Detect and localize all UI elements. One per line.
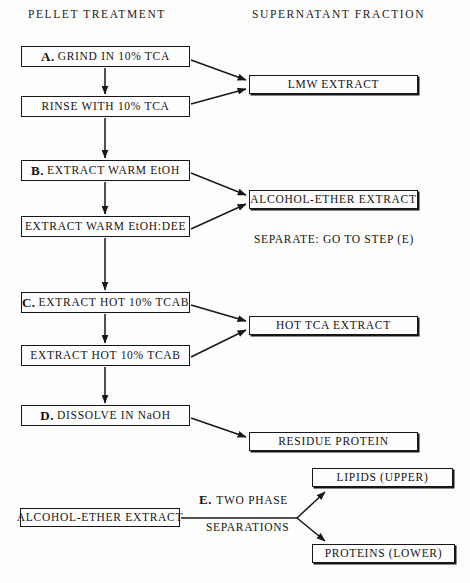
node-hot-tca-extract[interactable]: HOT TCA EXTRACT [249,316,418,335]
column-header-supernatant-fraction: SUPERNATANT FRACTION [252,8,425,20]
node-label: DISSOLVE IN NaOH [57,410,171,422]
label-two-phase-line2: SEPARATIONS [206,521,289,533]
arrow-second-to-hot-tca [191,330,246,357]
node-label: EXTRACT WARM EtOH [47,165,180,177]
arrow-extract-b-to-alcohol [191,173,246,195]
node-label: LMW EXTRACT [288,79,380,91]
label-step-letter: E. [199,492,216,507]
arrow-fork-to-lipids [297,492,325,518]
node-step-letter: A. [41,50,55,63]
node-extract-hot-tcab-c[interactable]: C.EXTRACT HOT 10% TCAB [21,292,190,313]
node-alcohol-ether-extract-input[interactable]: ALCOHOL-ETHER EXTRACT [20,508,180,527]
arrow-dissolve-to-residue [191,418,246,437]
node-extract-warm-etoh-dee[interactable]: EXTRACT WARM EtOH:DEE [21,216,190,237]
arrow-dee-to-alcohol [191,204,246,229]
node-alcohol-ether-extract[interactable]: ALCOHOL-ETHER EXTRACT [249,190,418,209]
node-lipids-upper[interactable]: LIPIDS (UPPER) [312,468,453,487]
node-dissolve-naoh[interactable]: D.DISSOLVE IN NaOH [21,405,190,426]
node-label: PROTEINS (LOWER) [325,548,443,560]
node-step-letter: D. [40,409,54,422]
node-proteins-lower[interactable]: PROTEINS (LOWER) [312,544,455,563]
node-step-letter: C. [22,296,36,309]
label-text: TWO PHASE [216,494,288,506]
node-label: HOT TCA EXTRACT [276,320,391,332]
label-separate-note: SEPARATE: GO TO STEP (E) [254,233,414,245]
label-text: SEPARATE: GO TO STEP (E) [254,233,414,245]
node-lmw-extract[interactable]: LMW EXTRACT [249,75,418,94]
node-rinse-tca[interactable]: RINSE WITH 10% TCA [21,96,190,117]
node-label: LIPIDS (UPPER) [337,472,429,484]
node-grind-tca[interactable]: A.GRIND IN 10% TCA [21,46,190,67]
node-label: EXTRACT HOT 10% TCAB [39,297,189,309]
node-label: ALCOHOL-ETHER EXTRACT [250,194,416,206]
node-label: ALCOHOL-ETHER EXTRACT [17,512,183,524]
arrow-fork-to-proteins [297,518,325,541]
arrow-extract-c-to-hot-tca [191,305,246,321]
column-header-pellet-treatment: PELLET TREATMENT [28,8,166,20]
label-text: SEPARATIONS [206,521,289,533]
flowchart-page: PELLET TREATMENTSUPERNATANT FRACTION A.G… [0,0,470,583]
node-label: EXTRACT HOT 10% TCAB [30,350,180,362]
node-extract-hot-tcab-2[interactable]: EXTRACT HOT 10% TCAB [21,345,190,366]
label-two-phase-line1: E. TWO PHASE [199,492,288,508]
arrow-grind-to-lmw [191,60,246,80]
node-extract-warm-etoh[interactable]: B.EXTRACT WARM EtOH [21,160,190,181]
node-label: EXTRACT WARM EtOH:DEE [25,221,186,233]
node-label: RINSE WITH 10% TCA [41,101,169,113]
node-label: GRIND IN 10% TCA [58,51,170,63]
diagonal-arrows [191,60,325,541]
node-residue-protein[interactable]: RESIDUE PROTEIN [249,432,418,451]
node-step-letter: B. [31,164,44,177]
node-label: RESIDUE PROTEIN [278,436,389,448]
arrow-rinse-to-lmw [191,89,246,104]
